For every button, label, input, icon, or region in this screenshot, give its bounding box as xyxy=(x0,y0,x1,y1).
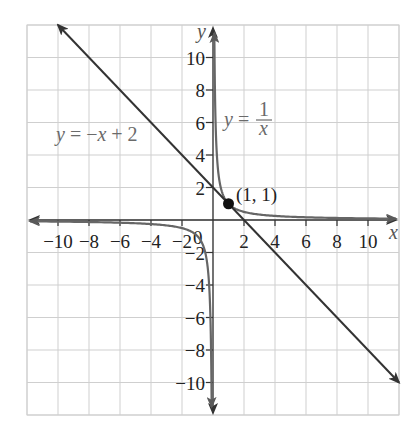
svg-text:y =: y = xyxy=(222,108,249,131)
curve-eq-y: y xyxy=(222,108,233,131)
y-tick-label: −4 xyxy=(185,275,206,296)
x-tick-label: 6 xyxy=(301,231,311,252)
y-tick-label: 2 xyxy=(196,178,206,199)
line-eq-y: y xyxy=(54,123,65,146)
intersection-point-label: (1, 1) xyxy=(236,184,277,206)
graph-figure: −10−8−6−4−2246810 108642−2−4−6−8−10 0 x … xyxy=(0,0,413,424)
line-eq-x: x xyxy=(96,123,106,145)
y-axis-label: y xyxy=(195,20,206,43)
x-tick-label: 10 xyxy=(359,231,378,252)
curve-eq-denominator: x xyxy=(258,117,268,139)
x-tick-label: −10 xyxy=(43,231,73,252)
y-tick-label: 4 xyxy=(196,145,206,166)
curve-eq-equals: = xyxy=(233,108,249,130)
line-eq-rest: + 2 xyxy=(106,123,137,145)
y-tick-label: 10 xyxy=(186,48,205,69)
x-tick-label: 8 xyxy=(332,231,342,252)
y-tick-label: −10 xyxy=(175,373,205,394)
y-tick-label: −6 xyxy=(185,308,205,329)
line-eq-minus: − xyxy=(86,123,97,145)
line-eq-equals: = xyxy=(65,123,86,145)
y-tick-label: −8 xyxy=(185,340,205,361)
line-equation-label: y = −x + 2 xyxy=(54,123,138,146)
curve-equation-label: y = 1 x xyxy=(222,98,272,139)
x-tick-label: −8 xyxy=(79,231,99,252)
y-tick-label: 8 xyxy=(196,80,206,101)
x-axis-label: x xyxy=(388,221,398,243)
intersection-point xyxy=(223,198,234,209)
x-tick-label: −4 xyxy=(141,231,162,252)
x-tick-label: 2 xyxy=(239,231,249,252)
x-tick-labels: −10−8−6−4−2246810 xyxy=(43,231,377,252)
x-tick-label: −6 xyxy=(110,231,130,252)
y-tick-label: 6 xyxy=(196,113,206,134)
